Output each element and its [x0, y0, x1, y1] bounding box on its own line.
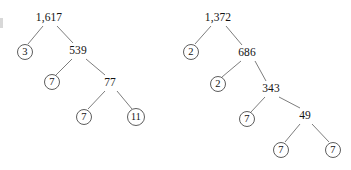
- tree-edge: [226, 26, 242, 45]
- composite-value-node: 539: [68, 45, 88, 57]
- tree-edge: [88, 91, 105, 109]
- tree-edge: [251, 97, 265, 112]
- composite-value-node: 686: [237, 47, 257, 59]
- tree-edge: [86, 59, 105, 75]
- composite-value-node: 1,372: [204, 12, 232, 24]
- prime-factor-node: 7: [76, 109, 92, 125]
- prime-factor-node: 2: [210, 76, 226, 92]
- factor-trees-figure: 1,61735397777111,3722686234374977: [0, 0, 351, 170]
- prime-factor-node: 2: [183, 44, 199, 60]
- tree-edge: [222, 61, 241, 77]
- tree-edge: [56, 59, 72, 75]
- prime-factor-node: 7: [44, 74, 60, 90]
- tree-edge: [117, 91, 132, 109]
- composite-value-node: 49: [298, 110, 312, 122]
- composite-value-node: 343: [261, 83, 281, 95]
- tree-edge: [195, 26, 211, 44]
- prime-factor-node: 7: [239, 111, 255, 127]
- tree-edge: [279, 97, 300, 108]
- composite-value-node: 1,617: [35, 12, 63, 24]
- prime-factor-node: 7: [273, 142, 289, 158]
- tree-edge: [57, 26, 73, 43]
- tree-edge: [312, 124, 329, 142]
- tree-edge: [255, 61, 266, 81]
- prime-factor-node: 7: [325, 142, 341, 158]
- tree-edge: [285, 124, 300, 142]
- scan-artifact-speck: [0, 18, 3, 28]
- composite-value-node: 77: [103, 77, 117, 89]
- tree-edge: [28, 26, 43, 44]
- prime-factor-node: 3: [17, 44, 33, 60]
- prime-factor-node: 11: [127, 108, 145, 126]
